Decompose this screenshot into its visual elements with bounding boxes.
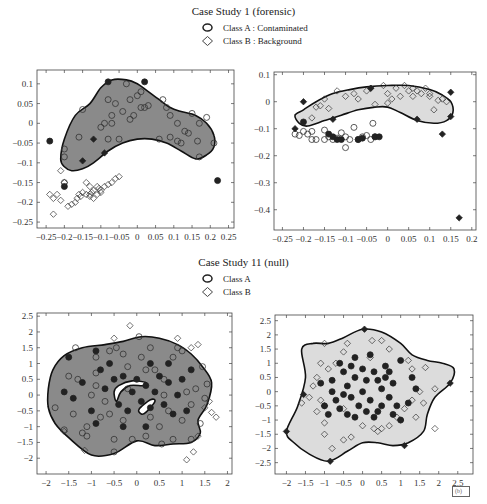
x-tick-label: 0.15 bbox=[184, 232, 200, 242]
y-tick-label: −0.1 bbox=[254, 124, 270, 134]
y-tick-label: 2.5 bbox=[260, 316, 272, 326]
x-tick-label: −0.15 bbox=[314, 234, 335, 244]
y-tick-label: 0 bbox=[29, 118, 34, 128]
x-tick-label: −1.5 bbox=[297, 478, 314, 488]
x-tick-label: 0.2 bbox=[205, 232, 216, 242]
x-tick-label: 0.1 bbox=[168, 232, 179, 242]
x-tick-label: 0.15 bbox=[443, 234, 459, 244]
x-tick-label: 0.05 bbox=[401, 234, 417, 244]
x-tick-label: −0.5 bbox=[335, 478, 352, 488]
y-tick-label: 1 bbox=[267, 358, 272, 368]
y-tick-label: −0.15 bbox=[12, 178, 33, 188]
x-tick-label: 0.1 bbox=[424, 234, 435, 244]
y-tick-label: −1 bbox=[261, 415, 271, 425]
x-tick-label: 2 bbox=[436, 478, 441, 488]
x-tick-label: −1.5 bbox=[61, 478, 78, 488]
y-tick-label: −0.25 bbox=[12, 217, 33, 227]
y-tick-label: 2 bbox=[267, 330, 272, 340]
x-tick-label: −1 bbox=[320, 478, 330, 488]
y-tick-label: −0.4 bbox=[254, 205, 271, 215]
x-tick-label: 0.25 bbox=[221, 232, 237, 242]
y-tick-label: 1.5 bbox=[260, 344, 272, 354]
x-tick-label: −0.05 bbox=[109, 232, 130, 242]
y-tick-label: −0.2 bbox=[254, 151, 270, 161]
x-tick-label: −0.05 bbox=[356, 234, 377, 244]
y-tick-label: −1.5 bbox=[17, 437, 34, 447]
x-tick-label: 0.5 bbox=[376, 478, 388, 488]
y-tick-label: 2 bbox=[29, 327, 34, 337]
class-boundary bbox=[286, 329, 454, 461]
x-tick-label: −2 bbox=[282, 478, 292, 488]
x-tick-label: −0.15 bbox=[72, 232, 93, 242]
x-tick-label: −0.25 bbox=[272, 234, 293, 244]
x-tick-label: 0.5 bbox=[154, 478, 166, 488]
x-tick-label: 1 bbox=[180, 478, 185, 488]
x-tick-label: 0 bbox=[385, 234, 390, 244]
case11-classA-region: −2−1.5−1−0.500.511.522.521.510.50−0.5−1−… bbox=[17, 311, 232, 488]
x-tick-label: −0.5 bbox=[106, 478, 123, 488]
y-tick-label: 0.5 bbox=[22, 374, 34, 384]
y-tick-label: −2 bbox=[261, 443, 271, 453]
y-tick-label: 0 bbox=[29, 390, 34, 400]
x-tick-label: −0.25 bbox=[36, 232, 57, 242]
case1-classB-region: −0.25−0.2−0.15−0.1−0.0500.050.10.150.20.… bbox=[254, 70, 478, 244]
x-tick-label: 0.2 bbox=[466, 234, 477, 244]
y-tick-label: −1 bbox=[23, 422, 33, 432]
y-tick-label: 0.1 bbox=[22, 79, 33, 89]
y-tick-label: 0.05 bbox=[17, 99, 33, 109]
y-tick-label: −0.2 bbox=[17, 197, 33, 207]
x-tick-label: 1.5 bbox=[199, 478, 211, 488]
x-tick-label: 0 bbox=[360, 478, 365, 488]
y-tick-label: −0.3 bbox=[254, 178, 271, 188]
x-tick-label: −0.2 bbox=[56, 232, 72, 242]
y-tick-label: 1 bbox=[29, 359, 34, 369]
y-tick-label: 0 bbox=[267, 387, 272, 397]
y-tick-label: −1.5 bbox=[255, 429, 272, 439]
x-tick-label: −2 bbox=[41, 478, 51, 488]
x-tick-label: 1 bbox=[398, 478, 403, 488]
x-tick-label: 0 bbox=[135, 478, 140, 488]
x-tick-label: −0.1 bbox=[337, 234, 353, 244]
case11-classB-region: −2−1.5−1−0.500.511.522.52.521.510.50−0.5… bbox=[255, 315, 473, 488]
x-tick-label: 1.5 bbox=[414, 478, 426, 488]
y-tick-label: 0 bbox=[266, 97, 271, 107]
y-tick-label: −0.1 bbox=[17, 158, 33, 168]
corner-label-box: (b) bbox=[452, 486, 470, 497]
x-tick-label: 0 bbox=[135, 232, 140, 242]
scatter-plots: −0.25−0.2−0.15−0.1−0.0500.050.10.150.20.… bbox=[0, 0, 487, 504]
x-tick-label: −0.2 bbox=[295, 234, 311, 244]
y-tick-label: 0.5 bbox=[260, 372, 272, 382]
y-tick-label: −0.05 bbox=[12, 138, 33, 148]
y-tick-label: −0.5 bbox=[17, 406, 34, 416]
y-tick-label: −2.5 bbox=[255, 458, 272, 468]
class-boundary bbox=[295, 85, 453, 126]
x-tick-label: 2 bbox=[225, 478, 230, 488]
y-tick-label: −2 bbox=[23, 453, 33, 463]
x-tick-label: −1 bbox=[87, 478, 97, 488]
x-tick-label: 0.05 bbox=[148, 232, 164, 242]
y-tick-label: 1.5 bbox=[22, 343, 34, 353]
case1-classA-region: −0.25−0.2−0.15−0.1−0.0500.050.10.150.20.… bbox=[12, 70, 237, 242]
x-tick-label: −0.1 bbox=[93, 232, 109, 242]
y-tick-label: 2.5 bbox=[22, 311, 34, 321]
y-tick-label: −0.5 bbox=[255, 401, 272, 411]
y-tick-label: 0.1 bbox=[259, 70, 270, 80]
